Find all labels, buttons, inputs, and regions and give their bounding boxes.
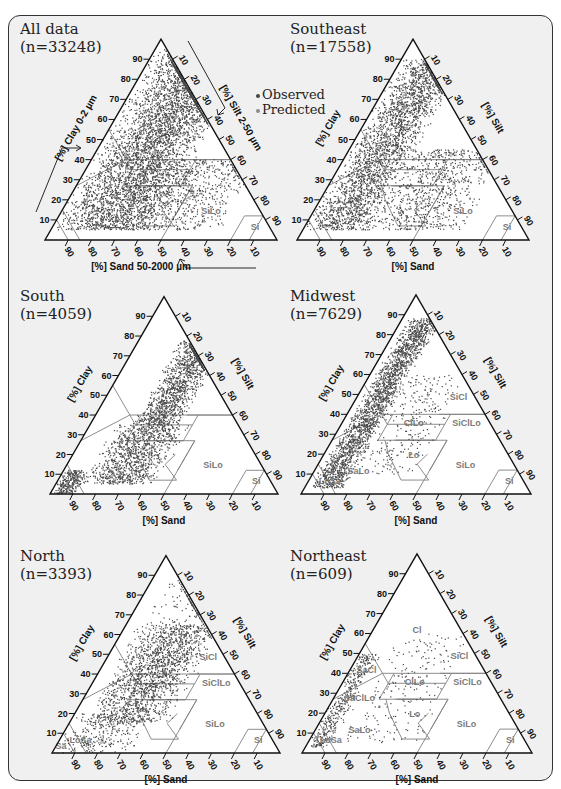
svg-text:10: 10 [251, 758, 265, 772]
svg-text:40: 40 [326, 155, 336, 165]
svg-text:80: 80 [373, 74, 383, 84]
svg-text:SiClLo: SiClLo [202, 678, 231, 688]
svg-text:40: 40 [216, 629, 230, 643]
svg-text:60: 60 [235, 154, 249, 168]
svg-text:Si: Si [506, 735, 515, 745]
svg-text:20: 20 [479, 499, 493, 513]
svg-text:60: 60 [489, 408, 503, 422]
svg-text:40: 40 [467, 627, 481, 641]
svg-text:20: 20 [303, 195, 313, 205]
svg-text:40: 40 [79, 410, 89, 420]
svg-text:80: 80 [259, 449, 273, 463]
svg-text:30: 30 [454, 245, 468, 259]
svg-text:Si: Si [252, 476, 261, 486]
svg-text:10: 10 [44, 469, 54, 479]
svg-text:30: 30 [452, 93, 466, 107]
svg-text:80: 80 [121, 74, 131, 84]
svg-text:80: 80 [124, 331, 134, 341]
svg-text:80: 80 [342, 758, 356, 772]
svg-text:10: 10 [432, 309, 446, 323]
svg-text:SiLo: SiLo [203, 460, 223, 470]
svg-text:30: 30 [319, 688, 329, 698]
silt-axis-label: [%] Silt [232, 615, 259, 650]
svg-text:30: 30 [318, 429, 328, 439]
sand-axis-label: [%] Sand 50-2000 µm [91, 261, 191, 272]
svg-text:70: 70 [248, 429, 262, 443]
svg-text:50: 50 [155, 245, 169, 259]
svg-text:SaLo: SaLo [347, 466, 370, 476]
svg-text:70: 70 [113, 351, 123, 361]
panel-title: Southeast (n=17558) [290, 20, 372, 56]
ternary-panel-southeast: SiLoSi1010102020203030304040405050506060… [292, 39, 536, 272]
svg-text:50: 50 [160, 758, 174, 772]
svg-text:LoSa: LoSa [69, 735, 92, 745]
svg-text:90: 90 [138, 570, 148, 580]
svg-text:30: 30 [455, 349, 469, 363]
svg-text:30: 30 [69, 689, 79, 699]
svg-text:20: 20 [193, 589, 207, 603]
svg-text:80: 80 [377, 589, 387, 599]
svg-text:90: 90 [318, 499, 332, 513]
panel-title: All data (n=33248) [20, 20, 102, 56]
sand-axis-label: [%] Sand [395, 515, 438, 526]
svg-text:20: 20 [188, 73, 202, 87]
svg-text:90: 90 [525, 727, 539, 741]
svg-text:30: 30 [63, 175, 73, 185]
svg-text:SaCl: SaCl [356, 665, 376, 675]
sand-arrow-icon [180, 259, 256, 268]
svg-text:Lo: Lo [409, 709, 420, 719]
svg-text:60: 60 [237, 409, 251, 423]
svg-text:60: 60 [354, 628, 364, 638]
svg-text:90: 90 [387, 310, 397, 320]
svg-text:50: 50 [475, 134, 489, 148]
svg-text:80: 80 [261, 708, 275, 722]
svg-text:SaClLo: SaClLo [344, 693, 376, 703]
svg-text:80: 80 [513, 707, 527, 721]
silt-axis-label: [%] Silt [483, 355, 510, 390]
svg-text:40: 40 [330, 409, 340, 419]
silt-axis-label: [%] Silt [230, 356, 257, 391]
svg-text:70: 70 [109, 94, 119, 104]
svg-text:50: 50 [342, 648, 352, 658]
ternary-panel-south: SiLoSi1010102020203030304040405050506060… [44, 297, 284, 526]
svg-text:10: 10 [503, 758, 517, 772]
svg-text:SiLo: SiLo [456, 460, 476, 470]
predicted-dot-icon [256, 109, 260, 113]
svg-text:LoSa: LoSa [320, 735, 343, 745]
svg-text:80: 80 [376, 330, 386, 340]
svg-text:ClLo: ClLo [404, 418, 424, 428]
svg-text:70: 70 [250, 688, 264, 702]
svg-text:80: 80 [126, 590, 136, 600]
silt-axis-label: [%] Silt [480, 100, 507, 135]
svg-text:20: 20 [58, 709, 68, 719]
panel-title: South (n=4059) [20, 287, 92, 323]
svg-text:20: 20 [229, 758, 243, 772]
svg-text:50: 50 [227, 648, 241, 662]
silt-axis-label: [%] Silt [484, 614, 511, 649]
svg-text:20: 20 [191, 330, 205, 344]
svg-text:70: 70 [115, 610, 125, 620]
svg-text:10: 10 [295, 469, 305, 479]
svg-text:10: 10 [177, 53, 191, 67]
svg-text:30: 30 [456, 608, 470, 622]
svg-text:70: 70 [365, 758, 379, 772]
triangle-background [302, 554, 532, 753]
svg-text:10: 10 [46, 728, 56, 738]
svg-text:80: 80 [341, 499, 355, 513]
svg-text:60: 60 [137, 758, 151, 772]
svg-text:70: 70 [361, 94, 371, 104]
svg-text:30: 30 [200, 93, 214, 107]
panel-title: North (n=3393) [20, 547, 92, 583]
svg-text:10: 10 [429, 53, 443, 67]
svg-text:90: 90 [67, 499, 81, 513]
svg-text:70: 70 [501, 428, 515, 442]
svg-text:90: 90 [62, 245, 76, 259]
svg-text:60: 60 [353, 369, 363, 379]
ternary-panel-all-data: SiLoSi1010102020203030304040405050506060… [36, 39, 283, 272]
panel-title: Midwest (n=7629) [290, 287, 362, 323]
svg-text:90: 90 [69, 758, 83, 772]
svg-text:30: 30 [202, 245, 216, 259]
svg-text:50: 50 [158, 499, 172, 513]
svg-text:60: 60 [132, 245, 146, 259]
svg-text:70: 70 [113, 499, 127, 513]
